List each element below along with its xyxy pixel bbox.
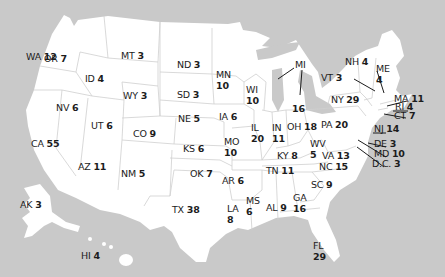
- state-label-az: AZ 11: [78, 161, 106, 172]
- state-abbr: CO: [133, 128, 147, 139]
- state-label-tx: TX 38: [172, 204, 200, 215]
- state-votes: 10: [246, 95, 259, 106]
- state-votes: 3: [193, 89, 199, 100]
- state-label-nd: ND 3: [177, 59, 200, 70]
- state-label-ia: IA 6: [219, 111, 237, 122]
- state-abbr: MS: [246, 195, 260, 206]
- state-abbr: NC: [319, 161, 332, 172]
- state-votes: 16: [293, 203, 306, 214]
- state-votes: 3: [35, 199, 41, 210]
- state-label-oh: OH 18: [287, 121, 317, 132]
- state-label-hi: HI 4: [81, 250, 100, 261]
- state-label-al: AL 9: [266, 202, 287, 213]
- state-votes: 8: [227, 214, 239, 225]
- state-label-mt: MT 3: [121, 50, 144, 61]
- state-label-nv: NV 6: [56, 102, 78, 113]
- state-votes: 5: [194, 113, 200, 124]
- state-abbr: IL: [251, 122, 259, 133]
- state-abbr: PA: [321, 119, 332, 130]
- state-abbr: AZ: [78, 161, 91, 172]
- state-votes: 4: [93, 250, 99, 261]
- state-label-ky: KY 8: [277, 150, 298, 161]
- state-label-la: LA8: [227, 203, 239, 225]
- state-label-id: ID 4: [85, 73, 104, 84]
- state-abbr: MO: [224, 136, 239, 147]
- state-abbr: FL: [313, 240, 323, 251]
- state-label-mi: MI: [295, 59, 306, 70]
- state-abbr: OR: [44, 53, 58, 64]
- state-label-ca: CA 55: [31, 138, 59, 149]
- state-label-mo: MO10: [224, 136, 239, 158]
- state-label-ak: AK 3: [20, 199, 42, 210]
- state-label-nm: NM 5: [121, 168, 145, 179]
- state-label-ct: CT 7: [394, 110, 415, 121]
- state-abbr: NV: [56, 102, 69, 113]
- state-votes: 9: [280, 202, 286, 213]
- state-votes: 3: [194, 59, 200, 70]
- state-label-co: CO 9: [133, 128, 156, 139]
- state-abbr: TX: [172, 204, 184, 215]
- state-abbr: IA: [219, 111, 228, 122]
- state-abbr: KS: [183, 143, 195, 154]
- state-label-wi: WI10: [246, 84, 259, 106]
- state-abbr: AL: [266, 202, 277, 213]
- electoral-map: WA 12OR 7ID 4MT 3WY 3ND 3SD 3NE 5MN10WI1…: [0, 0, 445, 277]
- state-votes: 20: [335, 119, 348, 130]
- state-votes: 10: [224, 147, 239, 158]
- state-label-sc: SC 9: [311, 179, 333, 190]
- state-votes: 3: [137, 50, 143, 61]
- hawaii-island-1: [88, 237, 92, 241]
- state-votes: 9: [150, 128, 156, 139]
- state-votes: 29: [346, 94, 359, 105]
- state-abbr: HI: [81, 250, 91, 261]
- state-abbr: ID: [85, 73, 95, 84]
- state-label-ms: MS6: [246, 195, 260, 217]
- state-label-ok: OK 7: [190, 168, 213, 179]
- state-label-nc: NC 15: [319, 161, 348, 172]
- state-abbr: NM: [121, 168, 136, 179]
- state-abbr: MI: [295, 59, 306, 70]
- state-label-fl: FL29: [313, 240, 326, 262]
- state-votes: 4: [362, 56, 368, 67]
- state-label-ne: NE 5: [178, 113, 200, 124]
- state-label-vt: VT 3: [321, 72, 342, 83]
- state-abbr: SC: [311, 179, 323, 190]
- hawaii-island-2: [102, 242, 106, 246]
- state-label-nj: NJ 14: [374, 123, 399, 134]
- state-votes: 8: [291, 150, 297, 161]
- state-abbr: MN: [216, 69, 231, 80]
- state-label-ar: AR 6: [222, 175, 244, 186]
- state-label-dc: D.C. 3: [372, 158, 400, 169]
- state-abbr: VA: [322, 150, 334, 161]
- state-label-wy: WY 3: [123, 90, 147, 101]
- state-votes: 5: [139, 168, 145, 179]
- state-votes: 6: [72, 102, 78, 113]
- state-votes: 3: [141, 90, 147, 101]
- hawaii-island-3: [109, 245, 113, 249]
- state-votes: 6: [231, 111, 237, 122]
- state-votes: 38: [187, 204, 200, 215]
- state-votes: 6: [238, 175, 244, 186]
- state-votes: 7: [206, 168, 212, 179]
- state-votes: 7: [61, 53, 67, 64]
- state-votes: 11: [281, 165, 294, 176]
- state-abbr: IN: [272, 122, 282, 133]
- state-label-mn: MN10: [216, 69, 231, 91]
- state-votes: 6: [246, 206, 260, 217]
- state-abbr: SD: [177, 89, 190, 100]
- state-votes: 55: [47, 138, 60, 149]
- state-votes: 7: [409, 110, 415, 121]
- state-votes: 20: [251, 133, 264, 144]
- state-votes: 10: [216, 80, 231, 91]
- state-votes: 3: [394, 158, 400, 169]
- state-abbr: NJ: [374, 123, 384, 134]
- state-abbr: OH: [287, 121, 301, 132]
- state-abbr: TN: [266, 165, 279, 176]
- state-abbr: ME: [376, 63, 390, 74]
- state-abbr: WV: [310, 138, 326, 149]
- state-votes: 3: [336, 72, 342, 83]
- state-label-ut: UT 6: [91, 120, 113, 131]
- state-label-in: IN11: [272, 122, 285, 144]
- state-votes: 29: [313, 251, 326, 262]
- state-abbr: MT: [121, 50, 135, 61]
